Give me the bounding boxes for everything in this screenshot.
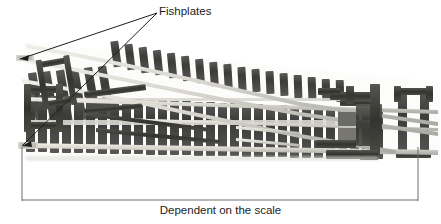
turnout-photo-diagram bbox=[0, 0, 441, 224]
dimension-caption: Dependent on the scale bbox=[0, 205, 441, 217]
figure-canvas: Fishplates Dependent on the scale bbox=[0, 0, 441, 224]
drop-shadow bbox=[26, 156, 378, 161]
fishplates-label: Fishplates bbox=[159, 6, 211, 18]
